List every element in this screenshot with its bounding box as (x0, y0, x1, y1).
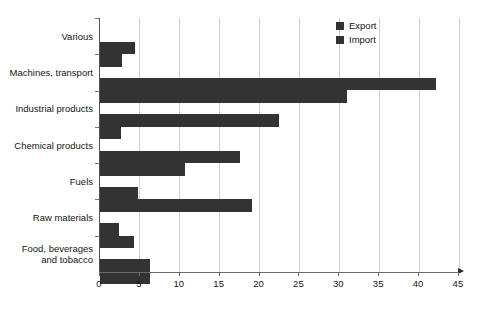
y-axis-tick (95, 163, 99, 164)
gridline (219, 18, 220, 272)
legend-label-export: Export (349, 21, 376, 31)
x-axis-tick-label: 5 (119, 278, 159, 289)
bar-export (100, 187, 138, 200)
x-axis-tick (418, 272, 419, 276)
x-axis-tick (139, 272, 140, 276)
bar-import (100, 90, 347, 103)
category-label: Various (61, 31, 93, 42)
y-axis-tick (95, 54, 99, 55)
plot-area (99, 18, 459, 272)
gridline (179, 18, 180, 272)
x-axis-tick-label: 20 (239, 278, 279, 289)
x-axis-tick-label: 15 (199, 278, 239, 289)
y-axis-tick (95, 91, 99, 92)
bar-import (100, 199, 252, 212)
x-axis-line (99, 272, 461, 273)
bar-import (100, 54, 122, 67)
x-axis-tick-label: 45 (438, 278, 478, 289)
bar-export (100, 151, 240, 164)
bar-import (100, 236, 134, 249)
legend-swatch-export (336, 22, 344, 30)
y-axis-tick (95, 236, 99, 237)
gridline (139, 18, 140, 272)
bar-export (100, 78, 436, 91)
gridline (259, 18, 260, 272)
category-label: Fuels (70, 176, 93, 187)
legend-item-export[interactable]: Export (336, 19, 376, 33)
chart-legend: Export Import (336, 19, 376, 47)
x-axis-tick-label: 35 (358, 278, 398, 289)
x-axis-tick-label: 40 (398, 278, 438, 289)
bar-export (100, 42, 135, 55)
legend-item-import[interactable]: Import (336, 33, 376, 47)
y-axis-tick (95, 199, 99, 200)
bar-import (100, 127, 121, 140)
y-axis-tick (95, 18, 99, 19)
gridline (299, 18, 300, 272)
y-axis-tick (95, 127, 99, 128)
bar-export (100, 259, 150, 272)
x-axis-tick (338, 272, 339, 276)
x-axis-tick-label: 10 (159, 278, 199, 289)
x-axis-tick-label: 30 (318, 278, 358, 289)
bar-import (100, 163, 185, 176)
category-label: Chemical products (14, 140, 93, 151)
bar-chart: Export Import 051015202530354045VariousM… (0, 0, 478, 310)
legend-swatch-import (336, 36, 344, 44)
bar-export (100, 114, 279, 127)
gridline (419, 18, 420, 272)
x-axis-tick (219, 272, 220, 276)
x-axis-tick-label: 0 (79, 278, 119, 289)
x-axis-tick (179, 272, 180, 276)
gridline (379, 18, 380, 272)
gridline (459, 18, 460, 272)
bar-export (100, 223, 119, 236)
category-label: Raw materials (33, 212, 93, 223)
x-axis-tick (458, 272, 459, 276)
x-axis-tick (99, 272, 100, 276)
category-label: Industrial products (15, 103, 93, 114)
x-axis-tick (259, 272, 260, 276)
x-axis-tick (378, 272, 379, 276)
category-label: Machines, transport (10, 67, 93, 78)
legend-label-import: Import (349, 35, 376, 45)
x-axis-tick (298, 272, 299, 276)
gridline (339, 18, 340, 272)
category-label: Food, beverages and tobacco (22, 243, 93, 265)
x-axis-tick-label: 25 (278, 278, 318, 289)
